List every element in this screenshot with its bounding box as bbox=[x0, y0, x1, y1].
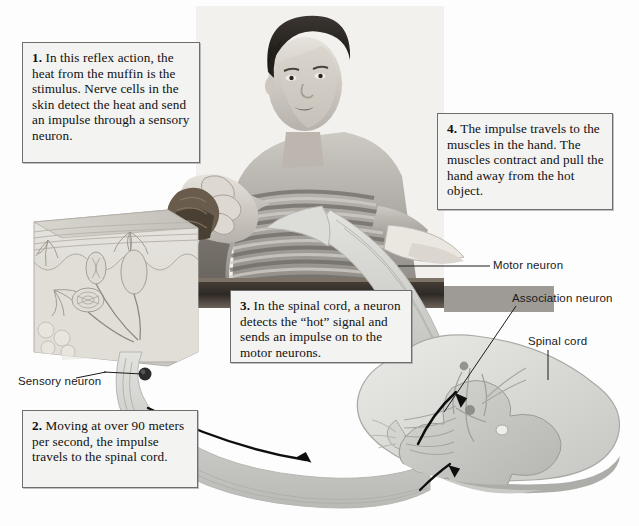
callout-step-4-number: 4. bbox=[447, 121, 457, 136]
skin-block-diagram bbox=[34, 210, 200, 381]
callout-step-1: 1. In this reflex action, the heat from … bbox=[22, 42, 200, 163]
callout-step-3-text: In the spinal cord, a neuron detects the… bbox=[240, 298, 401, 360]
callout-step-4-text: The impulse travels to the muscles in th… bbox=[447, 121, 604, 198]
callout-step-1-number: 1. bbox=[32, 50, 42, 65]
callout-step-3: 3. In the spinal cord, a neuron detects … bbox=[230, 290, 412, 363]
label-motor-neuron: Motor neuron bbox=[493, 259, 563, 271]
label-spinal-cord: Spinal cord bbox=[528, 335, 587, 347]
label-sensory-neuron: Sensory neuron bbox=[18, 375, 101, 387]
callout-step-2-text: Moving at over 90 meters per second, the… bbox=[32, 418, 184, 464]
callout-step-1-text: In this reflex action, the heat from the… bbox=[32, 50, 189, 143]
callout-step-2: 2. Moving at over 90 meters per second, … bbox=[22, 410, 198, 488]
callout-step-3-number: 3. bbox=[240, 298, 250, 313]
label-association-neuron: Association neuron bbox=[512, 292, 613, 304]
callout-step-4: 4. The impulse travels to the muscles in… bbox=[437, 113, 613, 210]
callout-step-2-number: 2. bbox=[32, 418, 42, 433]
figure-canvas: 1. In this reflex action, the heat from … bbox=[0, 0, 639, 526]
